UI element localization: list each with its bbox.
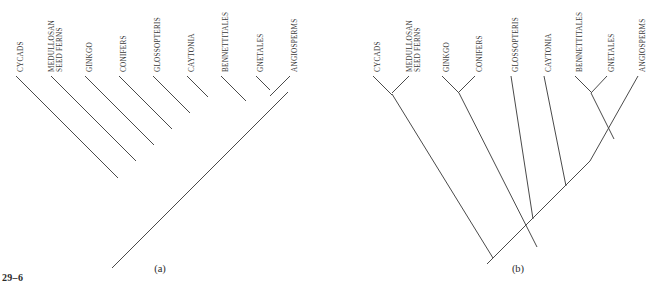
branch-node-cycad-pair-left [373,76,392,95]
branch-tip-branch-caytonia [187,76,208,97]
branch-node-ginkgo-pair-left [442,76,459,93]
branch-tip-branch-medullosan [51,76,136,161]
branch-node-bennett-gnetales-left [575,76,591,92]
panel-a-cladogram: CYCADSMEDULLOSANSEED FERNSGINKGOCONIFERS… [16,12,299,268]
taxon-label-line: SEED FERNS [56,27,64,72]
taxon-label-angiosperms: ANGIOSPERMS [639,19,647,72]
branch-node-ginkgo-pair-right [459,76,475,92]
taxon-label-conifers: CONIFERS [120,35,128,72]
branch-tip-branch-gnetales [256,76,270,90]
taxon-label-medullosan-seed-ferns: MEDULLOSANSEED FERNS [406,19,422,72]
taxon-label-line: GNETALES [608,33,616,72]
taxon-label-cycads: CYCADS [17,41,25,72]
taxon-label-caytonia: CAYTONIA [188,33,196,72]
taxon-label-line: CONIFERS [476,35,484,72]
taxon-label-cycads: CYCADS [374,41,382,72]
branch-backbone-main [118,92,288,262]
taxon-label-line: CAYTONIA [545,33,553,72]
taxon-label-angiosperms: ANGIOSPERMS [291,19,299,72]
taxon-label-line: CYCADS [17,41,25,72]
taxon-label-line: CYCADS [374,41,382,72]
branch-tip-branch-glossopteris [511,76,533,219]
taxon-label-gnetales: GNETALES [608,33,616,72]
taxon-label-line: SEED FERNS [414,27,422,72]
caption-panel-b: (b) [512,263,525,275]
taxon-label-line: ANGIOSPERMS [639,19,647,72]
taxon-label-ginkgo: GINKGO [86,42,94,72]
taxon-label-line: ANGIOSPERMS [291,19,299,72]
taxon-label-line: MEDULLOSAN [406,19,414,72]
branch-node-bennett-gnetales-right [591,76,607,93]
panel-captions: (a)(b) [154,263,524,275]
taxon-label-line: BENNETTITALES [576,12,584,72]
taxon-label-line: GNETALES [257,33,265,72]
figure-number: 29–6 [2,272,23,283]
branch-stem-bennett-gnetales [591,93,614,139]
branch-stem-cycad-clade [392,94,493,258]
branch-tip-branch-glossopteris [153,76,190,113]
caption-panel-a: (a) [154,263,166,275]
taxon-label-medullosan-seed-ferns: MEDULLOSANSEED FERNS [48,19,64,72]
taxon-label-bennettitales: BENNETTITALES [222,12,230,72]
figure-root: CYCADSMEDULLOSANSEED FERNSGINKGOCONIFERS… [0,0,658,294]
panel-b-cladogram: CYCADSMEDULLOSANSEED FERNSGINKGOCONIFERS… [373,12,647,264]
taxon-label-line: GLOSSOPTERIS [512,17,520,72]
cladogram-canvas: CYCADSMEDULLOSANSEED FERNSGINKGOCONIFERS… [0,0,658,294]
taxon-label-line: MEDULLOSAN [48,19,56,72]
branch-node-cycad-pair-right [392,76,409,93]
branch-tip-branch-conifers [119,76,172,129]
taxon-label-glossopteris: GLOSSOPTERIS [512,17,520,72]
taxon-label-conifers: CONIFERS [476,35,484,72]
taxon-label-line: GLOSSOPTERIS [154,17,162,72]
taxon-label-line: GINKGO [86,42,94,72]
taxon-label-line: CONIFERS [120,35,128,72]
branch-tip-branch-angiosperms [590,76,638,161]
taxon-label-line: GINKGO [443,42,451,72]
branch-tip-branch-ginkgo [85,76,154,145]
taxon-label-caytonia: CAYTONIA [545,33,553,72]
taxon-label-gnetales: GNETALES [257,33,265,72]
taxon-label-bennettitales: BENNETTITALES [576,12,584,72]
taxon-label-line: BENNETTITALES [222,12,230,72]
branch-backbone-core [493,161,590,258]
branch-tip-branch-bennettitales [221,76,246,101]
taxon-label-line: CAYTONIA [188,33,196,72]
taxon-label-ginkgo: GINKGO [443,42,451,72]
taxon-label-glossopteris: GLOSSOPTERIS [154,17,162,72]
branch-tip-branch-caytonia [544,76,566,186]
